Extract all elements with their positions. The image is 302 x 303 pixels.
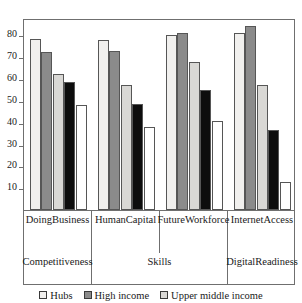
category-label: DoingBusiness bbox=[24, 211, 92, 253]
bar bbox=[132, 104, 143, 210]
bar bbox=[30, 39, 41, 210]
bar-group bbox=[228, 20, 296, 210]
chart-title-strip bbox=[22, 0, 295, 9]
group-label-line: Readiness bbox=[255, 256, 298, 269]
bar bbox=[280, 182, 291, 210]
category-label-line: Future bbox=[157, 214, 184, 227]
y-axis-tick-label: 20 bbox=[7, 160, 17, 170]
bar-chart: 1020304050607080 DoingBusinessHumanCapit… bbox=[0, 0, 302, 303]
group-label-line: Skills bbox=[148, 256, 172, 269]
group-label: DigitalReadiness bbox=[228, 253, 296, 285]
legend-swatch-icon bbox=[84, 291, 92, 299]
category-label-line: Access bbox=[263, 214, 293, 227]
y-axis-tick-label: 70 bbox=[7, 51, 17, 61]
bar bbox=[76, 105, 87, 210]
category-label-line: Business bbox=[52, 214, 89, 227]
category-label-line: Human bbox=[95, 214, 126, 227]
group-label-line: Digital bbox=[226, 256, 255, 269]
legend-label: High income bbox=[95, 290, 150, 301]
legend-label: Upper middle income bbox=[171, 290, 263, 301]
legend-item[interactable]: Hubs bbox=[39, 290, 72, 301]
group-axis: CompetitivenessSkillsDigitalReadiness bbox=[23, 253, 295, 285]
bar bbox=[53, 74, 64, 210]
category-label-line: Workforce bbox=[185, 214, 230, 227]
legend-item[interactable]: High income bbox=[84, 290, 150, 301]
bar bbox=[212, 121, 223, 210]
group-label-line: Competitiveness bbox=[23, 256, 93, 269]
y-axis-tick-label: 60 bbox=[7, 73, 17, 83]
y-axis-tick-label: 30 bbox=[7, 139, 17, 149]
category-label-line: Doing bbox=[26, 214, 52, 227]
y-axis-tick-label: 10 bbox=[7, 182, 17, 192]
bar bbox=[166, 35, 177, 210]
bar bbox=[234, 33, 245, 210]
bar bbox=[98, 40, 109, 210]
category-label-line: Capital bbox=[126, 214, 156, 227]
bar-group bbox=[24, 20, 92, 210]
bar bbox=[64, 82, 75, 210]
legend-item[interactable]: Upper middle income bbox=[160, 290, 263, 301]
bar bbox=[41, 52, 52, 210]
bar bbox=[121, 85, 132, 210]
y-axis-tick-label: 80 bbox=[7, 29, 17, 39]
chart-legend: HubsHigh incomeUpper middle income bbox=[0, 287, 302, 303]
plot-area bbox=[23, 19, 295, 211]
category-label: FutureWorkforce bbox=[160, 211, 228, 253]
legend-label: Hubs bbox=[50, 290, 72, 301]
category-label-line: Internet bbox=[231, 214, 264, 227]
bar bbox=[144, 127, 155, 210]
bar-group bbox=[92, 20, 160, 210]
y-axis-tick-label: 50 bbox=[7, 95, 17, 105]
category-axis: DoingBusinessHumanCapitalFutureWorkforce… bbox=[23, 211, 295, 253]
bar bbox=[268, 130, 279, 210]
bars-layer bbox=[24, 20, 294, 210]
group-label: Competitiveness bbox=[24, 253, 92, 285]
bar bbox=[109, 51, 120, 210]
bar bbox=[189, 62, 200, 210]
bar bbox=[257, 85, 268, 210]
bar bbox=[245, 26, 256, 210]
legend-swatch-icon bbox=[160, 291, 168, 299]
y-axis-tick-label: 40 bbox=[7, 117, 17, 127]
legend-swatch-icon bbox=[39, 291, 47, 299]
bar-group bbox=[160, 20, 228, 210]
category-label: InternetAccess bbox=[228, 211, 296, 253]
bar bbox=[200, 90, 211, 210]
bar bbox=[177, 33, 188, 210]
category-label: HumanCapital bbox=[92, 211, 160, 253]
y-axis: 1020304050607080 bbox=[0, 19, 23, 211]
group-label: Skills bbox=[92, 253, 228, 285]
